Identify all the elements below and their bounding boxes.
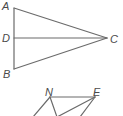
segment-bc [14,38,107,69]
label-b: B [3,68,10,80]
segment-n-lower-left [33,97,50,116]
triangle-figure: A D B C [1,0,118,80]
geometry-diagram: A D B C N E [0,0,123,116]
segment-e-lower-right [80,97,95,116]
segment-ac [14,8,107,38]
label-c: C [110,33,118,45]
label-n: N [45,86,53,98]
label-e: E [93,86,101,98]
label-d: D [2,32,10,44]
segment-e-bottom [57,97,95,116]
segment-n-bottom [50,97,57,116]
label-a: A [1,0,9,12]
second-figure: N E [33,86,101,116]
